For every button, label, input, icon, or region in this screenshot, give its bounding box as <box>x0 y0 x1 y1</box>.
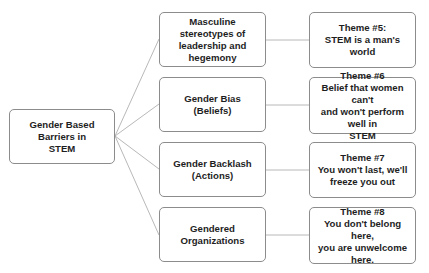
theme-label: Theme #8 You don't belong here, you are … <box>313 206 412 266</box>
theme-node-6: Theme #6 Belief that women can't and won… <box>309 77 416 134</box>
barrier-node-masculine-stereotypes: Masculine stereotypes of leadership and … <box>159 12 266 67</box>
theme-label: Theme #5: STEM is a man's world <box>313 22 412 58</box>
barrier-node-gender-backlash: Gender Backlash (Actions) <box>159 142 266 197</box>
theme-label: Theme #6 Belief that women can't and won… <box>313 70 412 142</box>
root-node: Gender Based Barriers in STEM <box>9 109 115 164</box>
barrier-label: Gendered Organizations <box>163 223 262 247</box>
barrier-node-gender-bias: Gender Bias (Beliefs) <box>159 77 266 132</box>
barrier-label: Gender Bias (Beliefs) <box>184 93 241 117</box>
theme-node-8: Theme #8 You don't belong here, you are … <box>309 207 416 264</box>
connector-root-barrier-4 <box>115 136 159 235</box>
theme-node-5: Theme #5: STEM is a man's world <box>309 12 416 68</box>
barrier-label: Gender Backlash (Actions) <box>173 158 251 182</box>
barrier-node-gendered-organizations: Gendered Organizations <box>159 207 266 262</box>
connector-root-barrier-1 <box>115 39 159 136</box>
theme-node-7: Theme #7 You won't last, we'll freeze yo… <box>309 142 416 198</box>
connector-root-barrier-3 <box>115 136 159 169</box>
root-label: Gender Based Barriers in STEM <box>13 119 111 155</box>
theme-label: Theme #7 You won't last, we'll freeze yo… <box>318 152 408 188</box>
barrier-label: Masculine stereotypes of leadership and … <box>163 16 262 64</box>
connector-root-barrier-2 <box>115 104 159 136</box>
